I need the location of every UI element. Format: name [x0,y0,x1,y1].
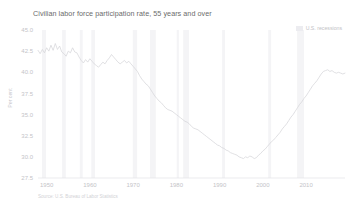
y-axis-tick-label: 42.5 [21,48,33,54]
chart-source: Source: U.S. Bureau of Labor Statistics [38,194,118,199]
plot-area: 27.530.032.535.037.540.042.545.0 1950196… [0,0,350,209]
chart-legend: U.S. recessions [296,25,342,31]
chart-title: Civilian labor force participation rate,… [33,9,212,18]
y-axis-tick-label: 37.5 [21,91,33,97]
y-axis-tick-label: 45.0 [21,27,33,33]
chart-figure: Civilian labor force participation rate,… [0,0,350,209]
recession-band [62,30,66,178]
recession-bands [42,30,304,178]
recession-swatch-icon [296,26,303,31]
recession-band [297,30,304,178]
recession-band [222,30,225,178]
recession-band [133,30,137,178]
y-axis: 27.530.032.535.037.540.042.545.0 [21,27,33,181]
x-axis-tick-label: 2000 [256,182,270,188]
y-axis-tick-label: 40.0 [21,69,33,75]
y-axis-tick-label: 27.5 [21,175,33,181]
x-axis-tick-label: 1980 [170,182,184,188]
recession-band [91,30,95,178]
x-axis: 1950196019701980199020002010 [38,178,345,188]
recession-band [177,30,179,178]
x-axis-tick-label: 2010 [299,182,313,188]
recession-band [150,30,156,178]
x-axis-tick-label: 1960 [83,182,97,188]
y-axis-tick-label: 30.0 [21,154,33,160]
recession-band [80,30,83,178]
legend-label-recessions: U.S. recessions [306,25,342,31]
recession-band [183,30,189,178]
y-axis-label: Per cent [7,74,13,122]
recession-band [268,30,271,178]
x-axis-tick-label: 1990 [213,182,227,188]
y-axis-tick-label: 35.0 [21,112,33,118]
x-axis-tick-label: 1970 [126,182,140,188]
y-axis-tick-label: 32.5 [21,133,33,139]
x-axis-tick-label: 1950 [40,182,54,188]
